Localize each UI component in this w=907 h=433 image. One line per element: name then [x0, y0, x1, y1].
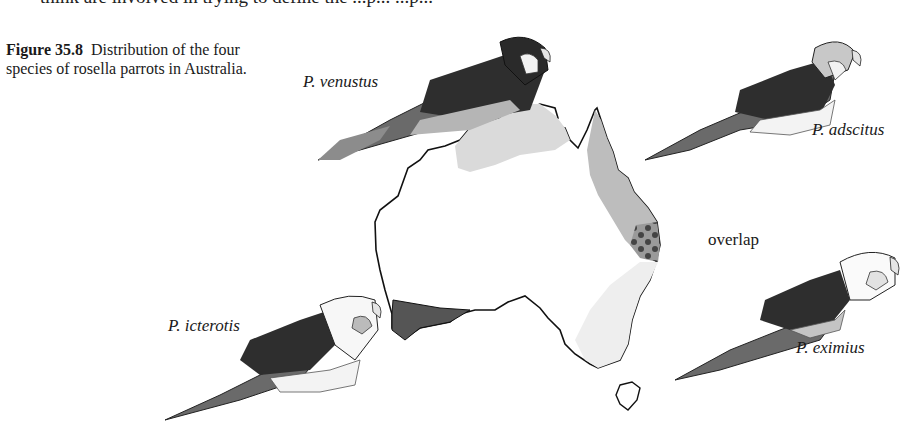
label-p-adscitus: P. adscitus	[812, 120, 884, 140]
tasmania	[616, 382, 640, 410]
parrot-adscitus-illustration	[645, 42, 861, 160]
parrot-eximius-illustration	[675, 252, 899, 380]
parrot-icterotis-illustration	[165, 296, 381, 420]
overlap-label: overlap	[708, 230, 759, 250]
rosella-distribution-illustration	[0, 0, 907, 433]
label-p-icterotis: P. icterotis	[168, 316, 240, 336]
label-p-eximius: P. eximius	[796, 338, 865, 358]
label-p-venustus: P. venustus	[303, 72, 378, 92]
australia-map	[375, 104, 660, 410]
